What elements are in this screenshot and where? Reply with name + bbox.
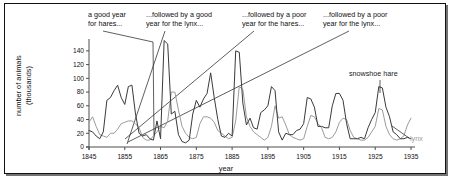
series-line-snowshoe-hare bbox=[89, 41, 411, 143]
annotation-1-line-1: a good year bbox=[88, 10, 127, 19]
x-tick-label: 1875 bbox=[189, 153, 204, 160]
annotation-poor-year-hares: ...followed by a poor year for the hares… bbox=[125, 10, 307, 139]
x-tick-label: 1935 bbox=[404, 153, 419, 160]
x-tick-label: 1895 bbox=[261, 153, 276, 160]
y-tick-label: 40 bbox=[77, 116, 85, 123]
annotation-2-line-2: year for the lynx... bbox=[146, 19, 203, 28]
annotation-3-line-1: ...followed by a poor bbox=[242, 10, 307, 19]
chart-series-group bbox=[89, 41, 411, 143]
y-axis-title-line-2: (thousands) bbox=[24, 66, 33, 105]
y-tick-label: 120 bbox=[73, 61, 84, 68]
series-label-snowshoe-hare: snowshoe hare bbox=[349, 69, 398, 93]
x-axis-title: year bbox=[219, 164, 234, 173]
chart-canvas: a good year for hares... ...followed by … bbox=[5, 4, 446, 174]
lynx-label: lynx bbox=[410, 134, 423, 143]
x-axis: 1845185518651875188518951905191519251935 bbox=[82, 147, 419, 160]
annotation-4-line-2: year for the lynx... bbox=[323, 19, 380, 28]
y-tick-label: 140 bbox=[73, 47, 84, 54]
x-tick-label: 1885 bbox=[225, 153, 240, 160]
annotation-2-line-1: ...followed by a good bbox=[146, 10, 212, 19]
annotation-1-leader-line bbox=[103, 31, 154, 135]
x-tick-label: 1855 bbox=[117, 153, 132, 160]
y-axis-title: number of animals (thousands) bbox=[14, 55, 33, 116]
snowshoe-hare-label: snowshoe hare bbox=[349, 69, 398, 78]
y-tick-label: 0 bbox=[80, 143, 84, 150]
y-tick-label: 80 bbox=[77, 88, 85, 95]
y-tick-label: 20 bbox=[77, 130, 85, 137]
chart-figure-frame: a good year for hares... ...followed by … bbox=[4, 3, 446, 174]
y-tick-label: 100 bbox=[73, 75, 84, 82]
annotation-1-line-2: for hares... bbox=[88, 19, 122, 28]
x-tick-label: 1845 bbox=[82, 153, 97, 160]
x-tick-label: 1905 bbox=[296, 153, 311, 160]
annotation-good-year-hares: a good year for hares... bbox=[88, 10, 154, 135]
x-tick-label: 1925 bbox=[368, 153, 383, 160]
x-tick-label: 1865 bbox=[153, 153, 168, 160]
annotation-4-line-1: ...followed by a poor bbox=[323, 10, 388, 19]
x-tick-label: 1915 bbox=[332, 153, 347, 160]
y-tick-label: 60 bbox=[77, 102, 85, 109]
y-axis: 020406080100120140 bbox=[73, 39, 89, 150]
y-axis-title-line-1: number of animals bbox=[14, 55, 23, 116]
annotation-3-line-2: year for the hares... bbox=[242, 19, 304, 28]
